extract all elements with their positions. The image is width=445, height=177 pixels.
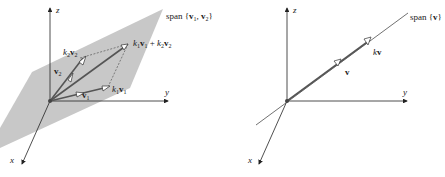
span-line: [256, 13, 408, 125]
origin-point: [48, 99, 52, 103]
z-axis-label: z: [292, 5, 297, 15]
span-v1-v2-label: span {v1, v2}: [166, 11, 213, 22]
x-axis-label: x: [247, 155, 252, 165]
panel-b-line-span: z y x span {v} kv v: [247, 5, 442, 165]
kv-label: kv: [373, 47, 382, 57]
y-axis-label: y: [402, 87, 407, 97]
x-axis-label: x: [9, 155, 14, 165]
x-axis: [259, 101, 287, 164]
span-v-label: span {v}: [410, 12, 442, 22]
panel-a-plane-span: z y x span {v1, v2} k1v1 + k2v2 k2v2 v2 …: [0, 5, 213, 165]
v-label: v: [345, 67, 350, 77]
z-axis-label: z: [55, 5, 60, 15]
span-diagrams: z y x span {v1, v2} k1v1 + k2v2 k2v2 v2 …: [0, 0, 445, 177]
origin-point: [285, 99, 289, 103]
vector-kv: [287, 40, 370, 101]
k2v2-label: k2v2: [63, 47, 78, 58]
y-axis-label: y: [164, 87, 169, 97]
